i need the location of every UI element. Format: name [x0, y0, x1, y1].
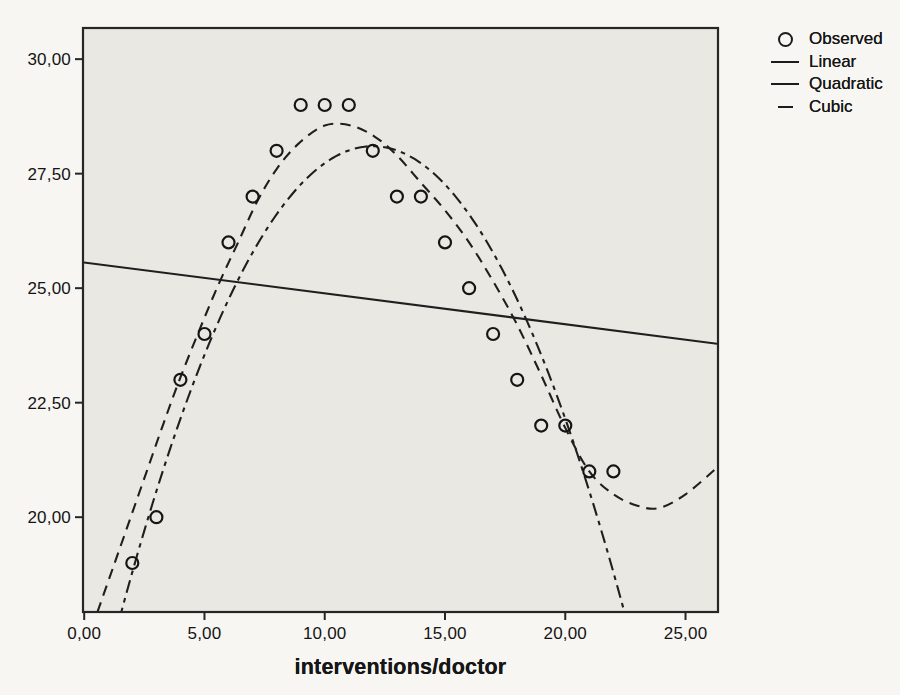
x-tick-label: 15,00	[423, 624, 467, 643]
plot-area	[83, 28, 718, 612]
open-circle-marker-icon	[778, 32, 793, 47]
y-tick-label: 20,00	[27, 508, 71, 527]
legend-item-linear: Linear	[766, 51, 898, 74]
dash-line-marker-icon	[778, 106, 793, 108]
x-tick-label: 0,00	[67, 624, 101, 643]
legend-item-observed: Observed	[766, 28, 898, 51]
y-tick-label: 25,00	[27, 279, 71, 298]
x-tick-label: 5,00	[188, 624, 222, 643]
solid-line-marker-icon	[771, 61, 799, 63]
legend-item-cubic: Cubic	[766, 96, 898, 119]
legend-item-quadratic: Quadratic	[766, 73, 898, 96]
x-tick-label: 25,00	[664, 624, 708, 643]
legend-label-cubic: Cubic	[809, 97, 852, 117]
y-tick-label: 22,50	[27, 394, 71, 413]
solid-line-marker-icon	[771, 83, 799, 85]
chart-legend: Observed Linear Quadratic Cubic	[766, 28, 898, 118]
x-tick-label: 20,00	[543, 624, 587, 643]
legend-label-linear: Linear	[809, 52, 856, 72]
x-tick-label: 10,00	[303, 624, 347, 643]
legend-label-quadratic: Quadratic	[809, 74, 883, 94]
legend-label-observed: Observed	[809, 29, 883, 49]
curve-fit-chart: 0,005,0010,0015,0020,0025,0020,0022,5025…	[0, 0, 900, 695]
x-axis-title: interventions/doctor	[83, 655, 718, 680]
y-tick-label: 27,50	[27, 165, 71, 184]
scanned-chart-page: 0,005,0010,0015,0020,0025,0020,0022,5025…	[0, 0, 900, 695]
y-tick-label: 30,00	[27, 50, 71, 69]
